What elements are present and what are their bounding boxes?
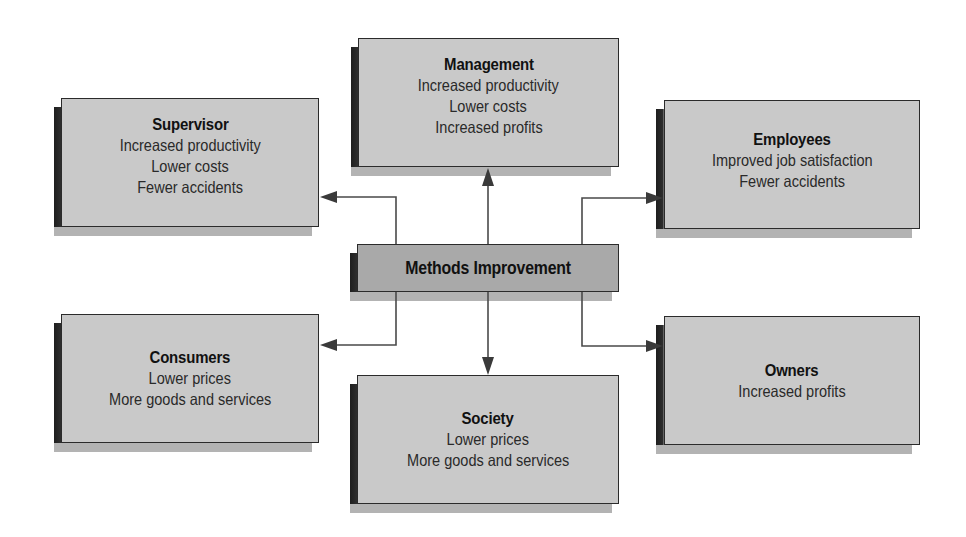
arrowhead-right-icon (646, 192, 663, 204)
arrowhead-up-icon (482, 168, 494, 186)
arrowhead-left-icon (320, 191, 337, 203)
connector-arrows (0, 0, 966, 537)
arrowhead-left-icon (320, 339, 337, 351)
arrowhead-down-icon (482, 357, 494, 375)
arrowhead-right-icon (646, 340, 663, 352)
